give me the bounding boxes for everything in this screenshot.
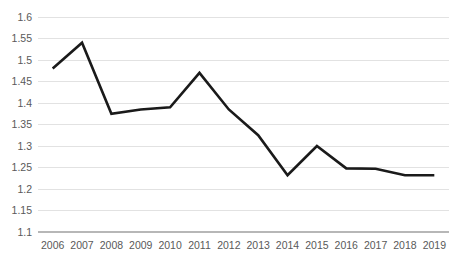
y-axis-tick-labels: 1.11.151.21.251.31.351.41.451.51.551.6 bbox=[12, 11, 33, 238]
y-axis-tick-label: 1.45 bbox=[12, 75, 33, 87]
x-axis-tick-label: 2009 bbox=[129, 239, 153, 251]
x-axis-tick-label: 2006 bbox=[41, 239, 65, 251]
x-axis-tick-labels: 2006200720082009201020112012201320142015… bbox=[41, 239, 446, 251]
x-axis-tick-label: 2019 bbox=[423, 239, 447, 251]
y-axis-tick-label: 1.35 bbox=[12, 118, 33, 130]
x-axis-tick-label: 2010 bbox=[158, 239, 182, 251]
x-axis-tick-label: 2011 bbox=[188, 239, 211, 251]
x-axis-tick-label: 2016 bbox=[335, 239, 359, 251]
x-axis-tick-label: 2018 bbox=[393, 239, 417, 251]
y-axis-tick-label: 1.25 bbox=[12, 161, 33, 173]
y-axis-tick-label: 1.2 bbox=[17, 183, 32, 195]
y-axis-tick-label: 1.3 bbox=[17, 140, 32, 152]
y-axis-tick-label: 1.4 bbox=[17, 97, 32, 109]
y-axis-tick-label: 1.5 bbox=[17, 54, 32, 66]
x-axis-tick-label: 2017 bbox=[364, 239, 388, 251]
data-series-group bbox=[53, 43, 435, 175]
y-axis-tick-label: 1.1 bbox=[17, 226, 32, 238]
series-line bbox=[53, 43, 435, 175]
x-axis-tick-label: 2015 bbox=[305, 239, 329, 251]
x-axis-tick-label: 2014 bbox=[276, 239, 300, 251]
y-axis-tick-label: 1.15 bbox=[12, 204, 33, 216]
y-axis-tick-label: 1.55 bbox=[12, 32, 33, 44]
x-axis-tick-label: 2007 bbox=[70, 239, 94, 251]
x-axis-tick-label: 2013 bbox=[246, 239, 270, 251]
y-axis-tick-label: 1.6 bbox=[17, 11, 32, 23]
gridlines-group bbox=[38, 17, 449, 211]
line-chart: 1.11.151.21.251.31.351.41.451.51.551.6 2… bbox=[0, 0, 457, 266]
x-axis-tick-label: 2012 bbox=[217, 239, 241, 251]
chart-canvas: 1.11.151.21.251.31.351.41.451.51.551.6 2… bbox=[0, 0, 457, 266]
x-axis-tick-label: 2008 bbox=[100, 239, 124, 251]
